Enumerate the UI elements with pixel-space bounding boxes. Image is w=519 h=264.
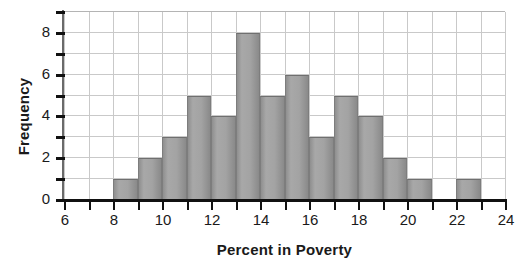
y-axis-tick [56,95,65,98]
histogram-bar [383,158,408,200]
histogram-bar [407,179,432,200]
x-axis-tick [456,202,458,210]
gridline-vertical [432,12,433,200]
histogram-bar [456,179,481,200]
x-axis-tick-label: 18 [344,211,374,228]
y-axis-tick-label: 0 [26,190,50,207]
x-axis-tick [481,202,483,210]
x-axis-tick [211,202,213,210]
histogram-bar [211,116,236,200]
y-axis-tick [56,53,65,56]
x-axis-tick-label: 10 [148,211,178,228]
x-axis-tick-label: 8 [99,211,129,228]
histogram-bar [309,137,334,200]
x-axis-tick [64,202,66,210]
x-axis-tick-label: 6 [50,211,80,228]
x-axis-tick [236,202,238,210]
gridline-horizontal [64,53,505,54]
y-axis-tick [56,74,65,77]
y-axis-line [62,10,64,202]
y-axis-tick [56,199,65,202]
x-axis-tick [505,202,507,210]
x-axis-tick [187,202,189,210]
gridline-vertical [407,12,408,200]
gridline-vertical [505,12,506,200]
x-axis-tick [162,202,164,210]
x-axis-tick [358,202,360,210]
x-axis-tick [113,202,115,210]
gridline-vertical [64,12,65,200]
histogram-bar [113,179,138,200]
gridline-vertical [456,12,457,200]
gridline-vertical [113,12,114,200]
gridline-vertical [89,12,90,200]
x-axis-tick [138,202,140,210]
histogram-bar [334,96,359,200]
y-axis-tick-label: 6 [26,65,50,82]
histogram-bar [358,116,383,200]
histogram-bar [138,158,163,200]
y-axis-tick [56,115,65,118]
x-axis-tick-label: 24 [491,211,519,228]
x-axis-tick [407,202,409,210]
x-axis-tick-label: 22 [442,211,472,228]
gridline-horizontal [64,11,505,12]
x-axis-tick [260,202,262,210]
histogram-bar [162,137,187,200]
y-axis-tick [56,32,65,35]
y-axis-tick [56,157,65,160]
histogram-bar [285,75,310,200]
x-axis-tick-label: 12 [197,211,227,228]
plot-area [64,12,505,200]
histogram-bar [187,96,212,200]
x-axis-tick-label: 20 [393,211,423,228]
y-axis-tick-label: 4 [26,106,50,123]
histogram-bar [260,96,285,200]
histogram-bar [236,33,261,200]
x-axis-tick [89,202,91,210]
y-axis-tick-label: 8 [26,23,50,40]
x-axis-tick [432,202,434,210]
y-axis-tick-label: 2 [26,148,50,165]
x-axis-tick-label: 14 [246,211,276,228]
x-axis-tick [285,202,287,210]
x-axis-title: Percent in Poverty [64,241,505,258]
gridline-horizontal [64,32,505,33]
x-axis-tick [334,202,336,210]
x-axis-tick [309,202,311,210]
y-axis-tick [56,178,65,181]
gridline-vertical [481,12,482,200]
x-axis-tick-label: 16 [295,211,325,228]
x-axis-tick [383,202,385,210]
y-axis-tick [56,136,65,139]
y-axis-tick [56,11,65,14]
